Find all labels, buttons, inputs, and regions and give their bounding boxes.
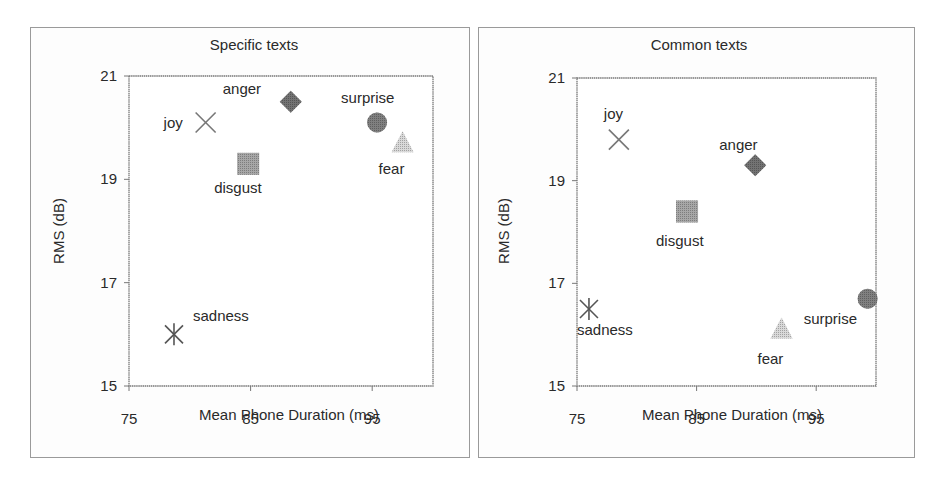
point-label: fear [758,350,784,367]
y-tick-label: 17 [548,274,565,291]
plot-area-right: 15171921758595joyangerdisgustsadnessfear… [0,0,938,496]
x-tick-label: 95 [808,410,825,427]
y-tick-label: 21 [548,69,565,86]
data-point-surprise [858,289,878,309]
point-label: anger [719,136,757,153]
point-label: joy [603,105,624,122]
point-label: sadness [577,321,633,338]
point-label: disgust [656,232,704,249]
data-point-disgust [676,200,698,222]
x-tick-label: 85 [688,410,705,427]
plot-frame [577,78,876,386]
x-tick-label: 75 [569,410,586,427]
y-tick-label: 15 [548,377,565,394]
y-tick-label: 19 [548,172,565,189]
point-label: surprise [804,310,857,327]
